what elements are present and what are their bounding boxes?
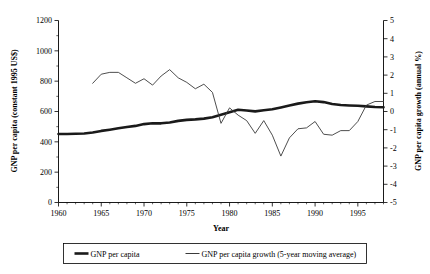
left-axis-tick-label: 0: [48, 198, 52, 207]
chart-container: 020040060080010001200 -5-4-3-2-1012345 1…: [0, 0, 430, 274]
right-axis-tick-label: 4: [390, 35, 394, 44]
x-axis-tick-label: 1985: [264, 209, 280, 218]
x-axis-title: Year: [213, 224, 229, 233]
x-axis-tick-label: 1970: [136, 209, 152, 218]
x-axis-tick-label: 1990: [307, 209, 323, 218]
right-axis-tick-label: -5: [390, 198, 397, 207]
legend-label-2: GNP per capita growth (5-year moving ave…: [202, 250, 357, 259]
left-axis-tick-label: 400: [40, 138, 52, 147]
x-axis-tick-label: 1965: [93, 209, 109, 218]
left-axis-tick-label: 800: [40, 77, 52, 86]
right-axis-tick-label: -4: [390, 180, 397, 189]
x-axis-tick-label: 1975: [179, 209, 195, 218]
left-axis-tick-label: 200: [40, 168, 52, 177]
legend-label-1: GNP per capita: [91, 250, 140, 259]
right-axis-tick-label: -3: [390, 162, 397, 171]
left-axis-tick-label: 600: [40, 107, 52, 116]
x-axis-tick-label: 1995: [350, 209, 366, 218]
right-axis-tick-label: 2: [390, 71, 394, 80]
right-axis-tick-label: 5: [390, 16, 394, 25]
right-axis-tick-label: 3: [390, 53, 394, 62]
x-axis-tick-label: 1960: [51, 209, 67, 218]
right-axis-tick-label: -2: [390, 144, 397, 153]
left-axis-tick-label: 1200: [36, 16, 52, 25]
right-axis-tick-label: 1: [390, 89, 394, 98]
chart-legend: GNP per capitaGNP per capita growth (5-y…: [64, 244, 367, 264]
right-axis-tick-label: 0: [390, 107, 394, 116]
gnp-per-capita-chart: 020040060080010001200 -5-4-3-2-1012345 1…: [0, 0, 430, 274]
right-axis-title: GNP per capita growth (annual %): [414, 51, 423, 171]
right-axis-tick-label: -1: [390, 126, 397, 135]
left-axis-tick-label: 1000: [36, 47, 52, 56]
left-axis-title: GNP per capita (constant 1995 US$): [10, 49, 19, 173]
x-axis-tick-label: 1980: [222, 209, 238, 218]
